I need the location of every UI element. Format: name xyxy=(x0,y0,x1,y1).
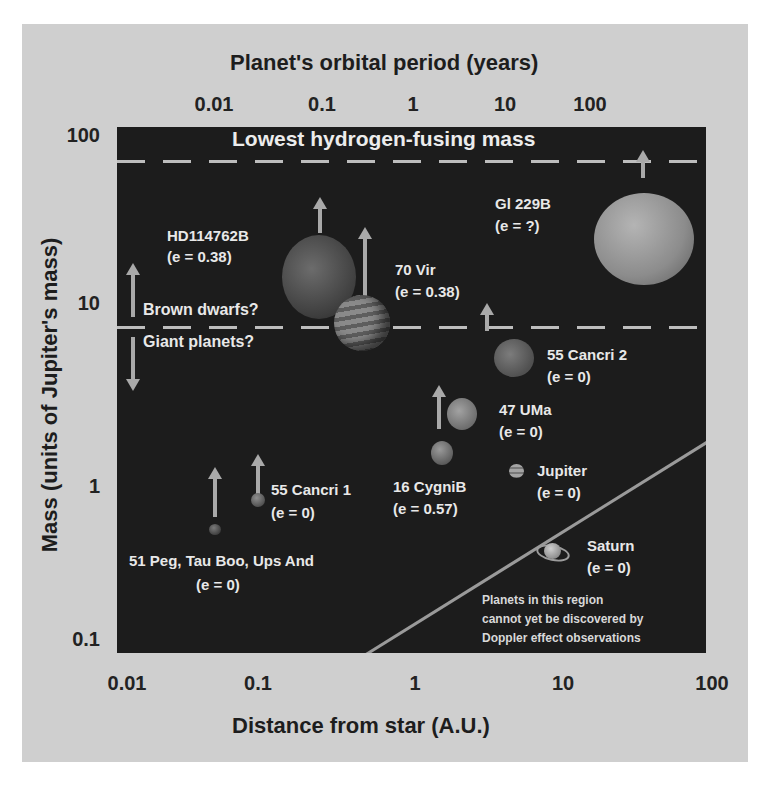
55-cancri-2-e: (e = 0) xyxy=(547,366,591,387)
hd114762b-name: HD114762B xyxy=(167,225,249,246)
arrow-up-icon xyxy=(641,160,645,178)
arrow-up-icon xyxy=(363,237,367,297)
planet-jupiter xyxy=(509,464,524,478)
top-tick: 1 xyxy=(407,93,418,116)
saturn-name: Saturn xyxy=(587,535,635,556)
planet-16-cygnib xyxy=(431,441,453,465)
16-cygnib-e: (e = 0.57) xyxy=(393,498,458,519)
y-axis-title: Mass (units of Jupiter's mass) xyxy=(37,238,63,553)
y-tick: 10 xyxy=(40,292,100,315)
top-tick: 0.1 xyxy=(308,93,336,116)
bottom-tick: 0.01 xyxy=(108,672,147,695)
16-cygnib-name: 16 CygniB xyxy=(393,476,466,497)
47-uma-e: (e = 0) xyxy=(499,421,543,442)
arrow-up-icon xyxy=(437,395,441,429)
planet-55-cancri-2 xyxy=(494,339,534,377)
top-tick: 10 xyxy=(494,93,516,116)
55-cancri-1-name: 55 Cancri 1 xyxy=(271,479,351,500)
top-tick: 0.01 xyxy=(195,93,234,116)
gl229b-e: (e = ?) xyxy=(495,215,540,236)
y-tick: 0.1 xyxy=(40,628,100,651)
jupiter-name: Jupiter xyxy=(537,460,587,481)
planet-gl-229b xyxy=(594,193,694,285)
plot-area: Lowest hydrogen-fusing mass Brown dwarfs… xyxy=(117,127,706,653)
gl229b-name: Gl 229B xyxy=(495,193,551,214)
bottom-tick: 100 xyxy=(695,672,728,695)
51-peg-name: 51 Peg, Tau Boo, Ups And xyxy=(129,550,314,571)
70-vir-e: (e = 0.38) xyxy=(395,281,460,302)
arrow-up-icon xyxy=(318,207,322,233)
region-note-line: cannot yet be discovered by xyxy=(482,611,643,628)
region-note-line: Doppler effect observations xyxy=(482,630,641,647)
top-axis-title: Planet's orbital period (years) xyxy=(230,50,538,76)
bottom-axis-title: Distance from star (A.U.) xyxy=(232,713,490,739)
saturn-e: (e = 0) xyxy=(587,557,631,578)
region-note-line: Planets in this region xyxy=(482,592,603,609)
arrow-up-icon xyxy=(485,313,489,331)
arrow-up-icon xyxy=(256,464,260,494)
bottom-tick: 0.1 xyxy=(244,672,272,695)
y-tick: 100 xyxy=(40,124,100,147)
51-peg-e: (e = 0) xyxy=(196,574,240,595)
y-tick: 1 xyxy=(40,475,100,498)
47-uma-name: 47 UMa xyxy=(499,399,552,420)
hd114762b-e: (e = 0.38) xyxy=(167,246,232,267)
planet-saturn xyxy=(544,543,561,559)
arrow-up-icon xyxy=(213,477,217,517)
bottom-tick: 1 xyxy=(409,672,420,695)
planet-70-vir xyxy=(334,295,390,351)
planet-47-uma xyxy=(447,398,477,430)
jupiter-e: (e = 0) xyxy=(537,482,581,503)
70-vir-name: 70 Vir xyxy=(395,259,436,280)
55-cancri-2-name: 55 Cancri 2 xyxy=(547,344,627,365)
55-cancri-1-e: (e = 0) xyxy=(271,502,315,523)
top-tick: 100 xyxy=(573,93,606,116)
planet-51-peg xyxy=(209,524,221,535)
planet-55-cancri-1 xyxy=(251,493,265,507)
bottom-tick: 10 xyxy=(552,672,574,695)
